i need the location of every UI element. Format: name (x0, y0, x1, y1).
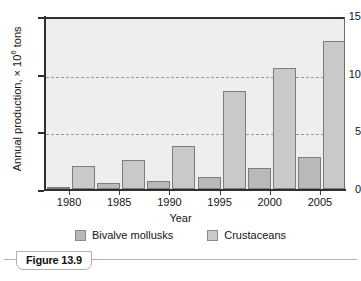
bar (323, 41, 344, 189)
legend-swatch (207, 230, 218, 241)
bar (223, 91, 246, 189)
figure-number-tab: Figure 13.9 (16, 251, 92, 270)
x-tick-mark (69, 190, 70, 195)
plot-inner (46, 19, 344, 189)
legend-item: Crustaceans (207, 229, 286, 241)
figure-container: Annual production, × 106 tons 051015 198… (0, 0, 361, 281)
gridline (46, 134, 344, 135)
bar (122, 160, 145, 189)
y-axis-title-prefix: Annual production, × 10 (11, 55, 23, 172)
x-tick-label: 2005 (290, 196, 350, 208)
x-tick-mark (169, 190, 170, 195)
y-axis-title: Annual production, × 106 tons (9, 9, 23, 189)
plot-area (44, 17, 345, 190)
bar (273, 68, 296, 189)
bar (248, 168, 271, 189)
x-tick-mark (270, 190, 271, 195)
bar (72, 166, 95, 189)
bar (147, 181, 170, 189)
x-axis-title: Year (0, 212, 361, 224)
legend-item: Bivalve mollusks (75, 229, 173, 241)
x-tick-mark (119, 190, 120, 195)
legend-label: Bivalve mollusks (92, 229, 173, 241)
figure-caption-row: Figure 13.9 (0, 251, 361, 277)
x-tick-mark (220, 190, 221, 195)
x-tick-mark (320, 190, 321, 195)
y-axis-line (44, 16, 46, 191)
legend-label: Crustaceans (224, 229, 286, 241)
bar (298, 157, 321, 189)
bar (198, 177, 221, 189)
x-axis-line (44, 189, 346, 191)
legend-swatch (75, 230, 86, 241)
y-axis-title-exponent: 6 (9, 50, 18, 54)
gridline (46, 77, 344, 78)
chart-legend: Bivalve mollusksCrustaceans (0, 229, 361, 241)
y-axis-title-suffix: tons (11, 26, 23, 50)
bar (172, 146, 195, 189)
